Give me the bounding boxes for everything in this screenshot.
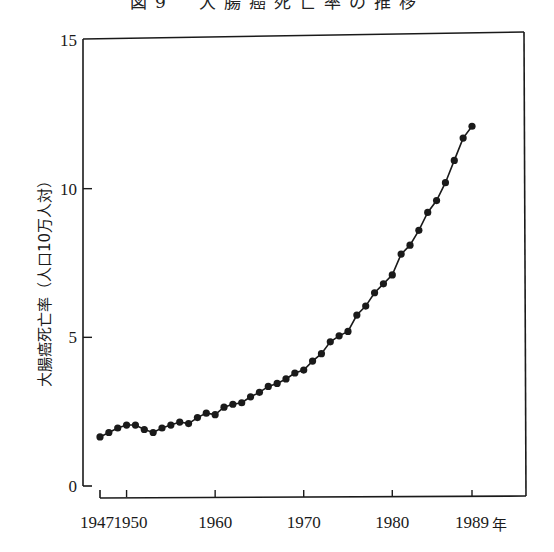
x-tick-label: 1950	[114, 513, 148, 532]
data-point-marker	[194, 414, 201, 421]
data-point-marker	[141, 426, 148, 433]
data-point-marker	[460, 135, 467, 142]
data-point-marker	[424, 209, 431, 216]
data-point-marker	[415, 227, 422, 234]
y-tick-label: 15	[60, 31, 77, 50]
data-point-marker	[114, 424, 121, 431]
plot-frame	[83, 32, 526, 498]
data-point-marker	[380, 280, 387, 287]
data-point-marker	[398, 250, 405, 257]
data-point-marker	[344, 328, 351, 335]
data-point-marker	[291, 369, 298, 376]
line-chart: 051015 194719501960197019801989 年 大腸癌死亡率…	[0, 0, 554, 552]
data-point-marker	[247, 393, 254, 400]
y-axis-label: 大腸癌死亡率（人口10万人対）	[36, 173, 54, 387]
y-axis-ticks: 051015	[60, 31, 92, 496]
series-line	[100, 126, 472, 437]
data-point-marker	[451, 157, 458, 164]
y-tick-label: 5	[69, 328, 78, 347]
data-point-marker	[220, 404, 227, 411]
x-axis-unit-label: 年	[492, 516, 507, 534]
data-series	[96, 123, 475, 441]
x-tick-label: 1970	[287, 513, 321, 532]
data-point-marker	[123, 421, 130, 428]
data-point-marker	[105, 429, 112, 436]
data-point-marker	[468, 123, 475, 130]
x-tick-label: 1947	[80, 513, 115, 532]
data-point-marker	[265, 383, 272, 390]
data-point-marker	[158, 424, 165, 431]
data-point-marker	[274, 380, 281, 387]
plot-frame-top	[83, 32, 524, 39]
data-point-marker	[256, 389, 263, 396]
data-point-marker	[185, 420, 192, 427]
x-tick-label: 1960	[198, 513, 232, 532]
data-point-marker	[212, 411, 219, 418]
plot-frame-right	[524, 32, 526, 496]
data-point-marker	[282, 375, 289, 382]
x-tick-label: 1980	[375, 513, 409, 532]
x-tick-label: 1989	[455, 513, 489, 532]
y-tick-label: 10	[60, 180, 77, 199]
data-point-marker	[176, 418, 183, 425]
data-point-marker	[336, 332, 343, 339]
data-point-marker	[238, 399, 245, 406]
data-point-marker	[300, 366, 307, 373]
data-point-marker	[318, 350, 325, 357]
data-point-marker	[309, 358, 316, 365]
y-tick-label: 0	[69, 477, 78, 496]
data-point-marker	[362, 303, 369, 310]
data-point-marker	[96, 433, 103, 440]
data-point-marker	[389, 271, 396, 278]
data-point-marker	[406, 242, 413, 249]
data-point-marker	[353, 311, 360, 318]
data-point-marker	[371, 289, 378, 296]
data-point-marker	[203, 410, 210, 417]
data-point-marker	[433, 197, 440, 204]
data-point-marker	[442, 179, 449, 186]
data-point-marker	[150, 429, 157, 436]
data-point-marker	[167, 421, 174, 428]
data-point-marker	[327, 338, 334, 345]
data-point-marker	[132, 421, 139, 428]
data-point-marker	[229, 401, 236, 408]
x-axis-line	[100, 496, 526, 498]
